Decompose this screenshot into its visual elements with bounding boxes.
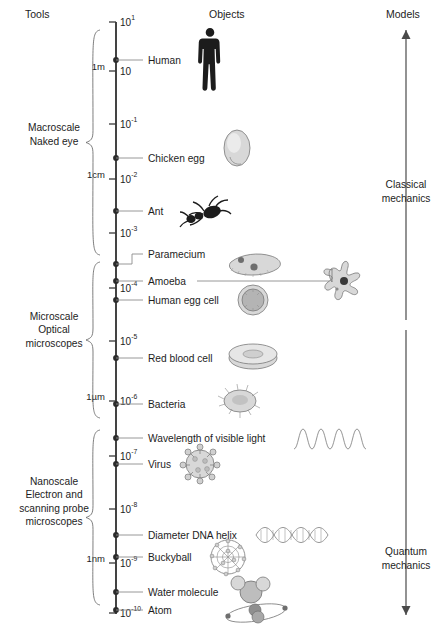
axis-tick-label: 10 bbox=[120, 228, 132, 239]
object-entry: Diameter DNA helix bbox=[113, 530, 237, 541]
scale-label: Microscale bbox=[30, 311, 79, 322]
object-entry: Red blood cell bbox=[113, 353, 212, 364]
object-entry: Water molecule bbox=[113, 587, 219, 598]
object-label: Human bbox=[148, 55, 181, 66]
object-entry: Paramecium bbox=[113, 249, 205, 267]
axis-tick-label: 10 bbox=[120, 608, 132, 619]
illustration-egg bbox=[224, 130, 250, 166]
tool-scale-entry: NanoscaleElectron andscanning probemicro… bbox=[19, 430, 100, 605]
object-entry: Amoeba bbox=[113, 276, 330, 287]
illustration-paramecium bbox=[229, 254, 280, 277]
object-entry: Chicken egg bbox=[113, 153, 205, 164]
illustration-atom bbox=[225, 600, 287, 625]
object-label: Diameter DNA helix bbox=[148, 530, 237, 541]
object-leader bbox=[116, 254, 143, 264]
model-label: mechanics bbox=[382, 193, 431, 204]
illustration-egg-cell bbox=[238, 285, 268, 315]
illustration-dna-helix bbox=[256, 528, 328, 543]
axis-tick-exponent: -10 bbox=[131, 605, 141, 612]
axis-tick-exponent: -7 bbox=[131, 448, 137, 455]
scale-label: Electron and bbox=[25, 489, 83, 500]
scale-label: Nanoscale bbox=[30, 476, 78, 487]
scale-label: microscopes bbox=[25, 516, 82, 527]
scale-label: Optical bbox=[38, 324, 70, 335]
object-label: Atom bbox=[148, 605, 172, 616]
axis-tick-exponent: -5 bbox=[131, 333, 137, 340]
object-entry: Human egg cell bbox=[113, 295, 219, 306]
illustration-ant bbox=[180, 196, 231, 227]
diagram-canvas: 1011010-110-210-310-410-510-610-710-810-… bbox=[0, 0, 440, 631]
scale-label: Macroscale bbox=[28, 122, 80, 133]
axis-tick-label: 10 bbox=[120, 336, 132, 347]
axis-tick-label: 10 bbox=[120, 504, 132, 515]
scale-label: microscopes bbox=[25, 338, 82, 349]
illustration-human-silhouette bbox=[198, 28, 220, 91]
axis-tick-label: 10 bbox=[120, 119, 132, 130]
object-label: Bacteria bbox=[148, 399, 186, 410]
axis-tick-exponent: -2 bbox=[131, 171, 137, 178]
axis-tick-label: 10 bbox=[120, 17, 132, 28]
object-label: Buckyball bbox=[148, 552, 192, 563]
model-entry: Quantummechanics bbox=[382, 330, 431, 615]
object-label: Virus bbox=[148, 459, 171, 470]
scale-brace bbox=[86, 430, 100, 605]
object-entry: Human bbox=[113, 55, 181, 66]
axis-tick-group: 1011010-110-210-310-410-510-610-710-810-… bbox=[109, 14, 141, 619]
axis-tick-label: 10 bbox=[120, 66, 132, 77]
unit-marker-label: 1µm bbox=[86, 391, 105, 402]
models-group: ClassicalmechanicsQuantummechanics bbox=[382, 30, 431, 615]
object-label: Wavelength of visible light bbox=[148, 433, 266, 444]
illustration-red-blood-cell bbox=[229, 344, 277, 369]
model-entry: Classicalmechanics bbox=[382, 30, 431, 320]
illustration-bacteria bbox=[218, 384, 260, 418]
model-arrow-head bbox=[402, 30, 411, 39]
illustration-sine-wave bbox=[294, 429, 366, 449]
axis-tick-exponent: 1 bbox=[131, 14, 135, 21]
model-label: Classical bbox=[386, 179, 427, 190]
object-label: Paramecium bbox=[148, 249, 205, 260]
tool-scale-entry: MacroscaleNaked eye bbox=[28, 30, 100, 255]
object-entry: Ant bbox=[113, 206, 163, 217]
axis-tick-exponent: -6 bbox=[131, 393, 137, 400]
scale-label: scanning probe bbox=[19, 503, 89, 514]
axis-tick-label: 10 bbox=[120, 451, 132, 462]
object-label: Ant bbox=[148, 206, 163, 217]
scale-label: Naked eye bbox=[30, 136, 79, 147]
axis-tick-exponent: -8 bbox=[131, 501, 137, 508]
unit-marker-label: 1m bbox=[92, 61, 105, 72]
illustration-water-molecule bbox=[231, 576, 270, 603]
model-arrow-head bbox=[402, 606, 411, 615]
axis-tick-label: 10 bbox=[120, 283, 132, 294]
axis-tick-exponent: -3 bbox=[131, 225, 137, 232]
object-label: Red blood cell bbox=[148, 353, 213, 364]
object-group: HumanChicken eggAntParameciumAmoebaHuman… bbox=[113, 55, 330, 616]
object-label: Amoeba bbox=[148, 276, 186, 287]
object-label: Chicken egg bbox=[148, 153, 205, 164]
model-label: mechanics bbox=[382, 560, 431, 571]
object-entry: Wavelength of visible light bbox=[113, 433, 265, 444]
illustration-buckyball bbox=[210, 539, 246, 576]
axis-tick-label: 10 bbox=[120, 558, 132, 569]
unit-marker-label: 1cm bbox=[87, 169, 105, 180]
scale-diagram: Tools Objects Models 1011010-110-210-310… bbox=[0, 0, 440, 631]
axis-tick-label: 10 bbox=[120, 396, 132, 407]
unit-marker-label: 1nm bbox=[87, 553, 106, 564]
tools-group: MacroscaleNaked eyeMicroscaleOpticalmicr… bbox=[19, 30, 100, 605]
illustration-amoeba bbox=[324, 261, 360, 299]
object-label: Water molecule bbox=[148, 587, 219, 598]
illustration-virus bbox=[180, 444, 220, 484]
unit-marker-group: 1m1cm1µm1nm bbox=[86, 61, 105, 564]
object-label: Human egg cell bbox=[148, 295, 219, 306]
model-label: Quantum bbox=[385, 546, 427, 557]
axis-tick-label: 10 bbox=[120, 174, 132, 185]
axis-tick-exponent: -1 bbox=[131, 116, 137, 123]
axis-tick-exponent: -9 bbox=[131, 555, 137, 562]
